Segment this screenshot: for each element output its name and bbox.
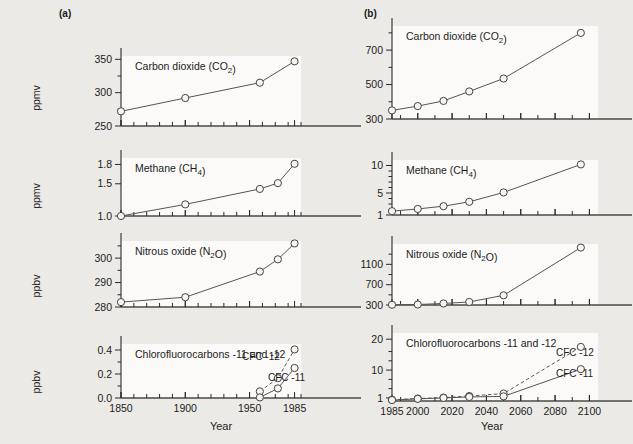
data-point-a-cfc-1-2: [291, 364, 298, 371]
y-tick-label-a-co2-2: 350: [94, 53, 112, 65]
x-tick-label-a-cfc-2: 1950: [238, 402, 262, 414]
y-tick-label-b-n2o-2: 1100: [360, 258, 383, 270]
chart-b-co2: 300500700Carbon dioxide (CO2): [365, 18, 632, 125]
plots-svg: 250300350Carbon dioxide (CO2)ppmv1.01.51…: [0, 0, 633, 444]
x-tick-label-b-cfc-4: 2060: [509, 405, 533, 417]
series-label-a-cfc-12: CFC -12: [242, 351, 280, 362]
y-tick-label-a-ch4-1: 1.5: [97, 177, 112, 189]
data-point-a-cfc-1-0: [256, 394, 263, 401]
y-axis-title-a-n2o: ppbv: [30, 274, 42, 298]
series-label-a-cfc-11: CFC -11: [268, 372, 305, 383]
y-tick-label-b-ch4-2: 10: [371, 159, 383, 171]
data-point-b-ch4-0-0: [388, 208, 395, 215]
y-tick-label-b-ch4-0: 1: [377, 209, 383, 221]
data-point-a-co2-0-3: [291, 58, 298, 65]
data-point-a-ch4-0-0: [117, 212, 124, 219]
y-tick-label-a-cfc-1: 0.2: [97, 368, 112, 380]
data-point-b-n2o-0-3: [466, 298, 473, 305]
y-tick-label-b-cfc-0: 1: [377, 392, 383, 404]
x-axis-name-b: Year: [481, 420, 504, 432]
x-tick-label-b-cfc-5: 2080: [543, 405, 567, 417]
data-point-b-cfc-1-4: [500, 393, 507, 400]
data-point-a-ch4-0-4: [291, 160, 298, 167]
data-point-b-n2o-0-0: [388, 301, 395, 308]
x-tick-label-b-cfc-1: 2000: [406, 405, 430, 417]
chart-a-n2o: 280290300Nitrous oxide (N2O)ppbv: [30, 233, 361, 313]
y-tick-label-b-cfc-2: 20: [371, 333, 383, 345]
data-point-b-ch4-0-1: [414, 205, 421, 212]
x-tick-label-a-cfc-3: 1985: [283, 402, 307, 414]
y-tick-label-a-cfc-2: 0.4: [97, 344, 112, 356]
y-axis-title-a-cfc: ppbv: [30, 370, 42, 394]
data-point-b-cfc-1-2: [440, 394, 447, 401]
x-axis-name-a: Year: [210, 420, 233, 432]
data-point-a-ch4-0-2: [256, 185, 263, 192]
data-point-a-cfc-1-1: [274, 385, 281, 392]
y-tick-label-b-cfc-1: 10: [371, 364, 383, 376]
data-point-b-co2-0-3: [466, 88, 473, 95]
figure-container: (a) (b) 250300350Carbon dioxide (CO2)ppm…: [0, 0, 633, 444]
x-tick-label-a-cfc-1: 1900: [174, 402, 198, 414]
data-point-a-n2o-0-0: [117, 299, 124, 306]
y-tick-label-b-co2-1: 500: [365, 78, 383, 90]
chart-b-n2o: 3007001100Nitrous oxide (N2O): [360, 236, 632, 311]
x-tick-label-b-cfc-2: 2020: [440, 405, 464, 417]
panel-label-b: (b): [364, 8, 377, 19]
data-point-a-n2o-0-3: [274, 256, 281, 263]
chart-a-ch4: 1.01.51.8Methane (CH4)ppmv: [30, 150, 361, 222]
data-point-b-ch4-0-3: [466, 198, 473, 205]
svg-text:Chlorofluorocarbons -11 and -1: Chlorofluorocarbons -11 and -12: [406, 337, 557, 349]
series-label-b-cfc-11: CFC -11: [556, 368, 593, 379]
data-point-b-n2o-0-1: [414, 301, 421, 308]
data-point-b-n2o-0-4: [500, 292, 507, 299]
data-point-a-ch4-0-1: [182, 201, 189, 208]
y-tick-label-a-co2-1: 300: [94, 86, 112, 98]
data-point-a-co2-0-2: [256, 79, 263, 86]
data-point-b-ch4-0-4: [500, 189, 507, 196]
data-point-a-ch4-0-3: [274, 180, 281, 187]
y-tick-label-a-n2o-2: 300: [94, 252, 112, 264]
data-point-b-cfc-1-1: [414, 395, 421, 402]
plot-title-b-cfc: Chlorofluorocarbons -11 and -12: [406, 337, 557, 349]
y-tick-label-a-n2o-1: 290: [94, 276, 112, 288]
y-axis-title-a-co2: ppmv: [30, 84, 42, 110]
data-point-b-cfc-1-0: [388, 396, 395, 403]
chart-a-cfc: 0.00.20.41850190019501985Chlorofluorocar…: [30, 336, 361, 414]
data-point-a-n2o-0-2: [256, 268, 263, 275]
data-point-b-co2-0-0: [388, 107, 395, 114]
chart-b-ch4: 1510Methane (CH4): [371, 152, 632, 221]
y-tick-label-b-co2-0: 300: [365, 113, 383, 125]
data-point-a-n2o-0-1: [182, 294, 189, 301]
x-tick-label-b-cfc-3: 2040: [475, 405, 499, 417]
data-point-a-cfc-0-2: [291, 346, 298, 353]
data-point-b-ch4-0-5: [577, 161, 584, 168]
data-point-b-ch4-0-2: [440, 203, 447, 210]
y-tick-label-b-n2o-1: 700: [365, 278, 383, 290]
y-tick-label-a-n2o-0: 280: [94, 301, 112, 313]
x-tick-label-a-cfc-0: 1850: [109, 402, 133, 414]
y-tick-label-b-co2-2: 700: [365, 44, 383, 56]
data-point-b-n2o-0-2: [440, 300, 447, 307]
x-tick-label-b-cfc-0: 1985: [380, 405, 404, 417]
data-point-b-co2-0-4: [500, 75, 507, 82]
data-point-b-co2-0-2: [440, 97, 447, 104]
x-tick-label-b-cfc-6: 2100: [578, 405, 602, 417]
panel-label-a: (a): [59, 8, 71, 19]
data-point-b-n2o-0-5: [577, 244, 584, 251]
y-tick-label-b-n2o-0: 300: [365, 299, 383, 311]
chart-a-co2: 250300350Carbon dioxide (CO2)ppmv: [30, 48, 361, 132]
y-tick-label-a-co2-0: 250: [94, 120, 112, 132]
data-point-b-cfc-1-3: [466, 393, 473, 400]
y-tick-label-b-ch4-1: 5: [377, 187, 383, 199]
data-point-b-co2-0-5: [577, 29, 584, 36]
y-tick-label-a-ch4-0: 1.0: [97, 210, 112, 222]
series-label-b-cfc-12: CFC -12: [556, 347, 594, 358]
y-axis-title-a-ch4: ppmv: [30, 182, 42, 208]
data-point-a-n2o-0-4: [291, 240, 298, 247]
data-point-a-co2-0-0: [117, 108, 124, 115]
y-tick-label-a-ch4-2: 1.8: [97, 158, 112, 170]
data-point-b-co2-0-1: [414, 102, 421, 109]
data-point-a-co2-0-1: [182, 94, 189, 101]
